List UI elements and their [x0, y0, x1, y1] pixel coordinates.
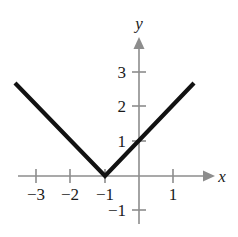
x-tick-label-1: 1: [169, 185, 178, 204]
absolute-value-curve: [15, 83, 194, 176]
y-tick-label-1: 1: [118, 132, 127, 151]
y-tick-label-3: 3: [118, 63, 127, 82]
x-axis-label: x: [217, 167, 226, 186]
coordinate-plane-svg: −3 −2 −1 1 3 2 1 −1 x y: [0, 0, 238, 237]
x-tick-label-neg3: −3: [27, 185, 45, 204]
y-tick-label-neg1: −1: [108, 201, 126, 220]
y-tick-label-2: 2: [118, 97, 127, 116]
y-axis-label: y: [133, 14, 143, 33]
graph-figure: −3 −2 −1 1 3 2 1 −1 x y: [0, 0, 238, 237]
y-axis-arrow-icon: [134, 37, 145, 49]
x-axis-arrow-icon: [203, 171, 215, 182]
x-tick-label-neg2: −2: [61, 185, 79, 204]
